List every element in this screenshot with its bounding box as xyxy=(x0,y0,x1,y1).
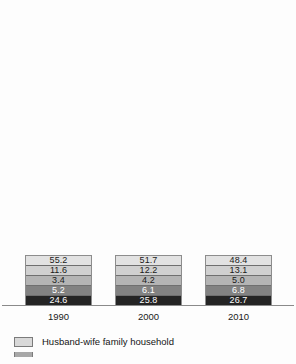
bar-segment[interactable]: 13.1 xyxy=(206,266,271,276)
bar-segment[interactable]: 24.6 xyxy=(26,296,91,305)
bar-segment[interactable]: 5.2 xyxy=(26,286,91,296)
bar-segment[interactable]: 6.1 xyxy=(116,286,181,296)
bar-segment[interactable]: 11.6 xyxy=(26,266,91,276)
segment-value-label: 25.8 xyxy=(140,296,158,305)
segment-value-label: 5.2 xyxy=(52,286,65,295)
segment-value-label: 6.8 xyxy=(232,286,245,295)
stacked-bar-2000[interactable]: 51.7 12.2 4.2 6.1 25.8 xyxy=(115,255,182,306)
stacked-bar-1990[interactable]: 55.2 11.6 3.4 5.2 24.6 xyxy=(25,255,92,306)
x-axis-tick-labels: 1990 2000 2010 xyxy=(0,310,296,326)
legend-color-swatch xyxy=(14,352,33,357)
segment-value-label: 11.6 xyxy=(50,266,67,275)
x-axis-line xyxy=(2,305,294,306)
bar-segment[interactable]: 5.0 xyxy=(206,276,271,286)
legend-color-swatch xyxy=(14,337,33,347)
x-tick-label: 2000 xyxy=(115,310,182,323)
bar-segment[interactable]: 4.2 xyxy=(116,276,181,286)
legend-item-label: Husband-wife family household xyxy=(42,336,174,347)
segment-value-label: 5.0 xyxy=(232,276,245,285)
segment-value-label: 55.2 xyxy=(50,256,68,265)
stacked-bar-2010[interactable]: 48.4 13.1 5.0 6.8 26.7 xyxy=(205,255,272,306)
chart-figure: 55.2 11.6 3.4 5.2 24.6 51.7 12.2 xyxy=(0,0,296,364)
bar-segment[interactable]: 25.8 xyxy=(116,296,181,305)
segment-value-label: 26.7 xyxy=(230,296,248,305)
segment-value-label: 4.2 xyxy=(142,276,155,285)
bar-segment[interactable]: 55.2 xyxy=(26,256,91,266)
bar-segment[interactable]: 26.7 xyxy=(206,296,271,305)
segment-value-label: 51.7 xyxy=(140,256,158,265)
legend-item[interactable]: Husband-wife family household xyxy=(14,334,296,349)
segment-value-label: 24.6 xyxy=(50,296,68,305)
chart-legend: Husband-wife family household xyxy=(14,334,296,357)
bar-segment[interactable]: 48.4 xyxy=(206,256,271,266)
bar-segment[interactable]: 51.7 xyxy=(116,256,181,266)
x-tick-label: 2010 xyxy=(205,310,272,323)
segment-value-label: 48.4 xyxy=(230,256,248,265)
segment-value-label: 12.2 xyxy=(140,266,158,275)
segment-value-label: 13.1 xyxy=(230,266,248,275)
bar-segment[interactable]: 3.4 xyxy=(26,276,91,286)
segment-value-label: 3.4 xyxy=(52,276,65,285)
legend-item[interactable] xyxy=(14,352,296,357)
segment-value-label: 6.1 xyxy=(142,286,155,295)
bar-segment[interactable]: 12.2 xyxy=(116,266,181,276)
plot-area: 55.2 11.6 3.4 5.2 24.6 51.7 12.2 xyxy=(0,0,296,307)
x-tick-label: 1990 xyxy=(25,310,92,323)
bar-segment[interactable]: 6.8 xyxy=(206,286,271,296)
